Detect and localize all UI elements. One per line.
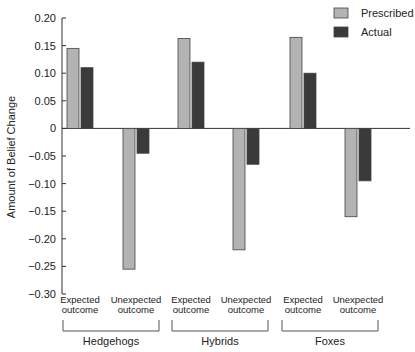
- bars: [67, 37, 371, 269]
- y-tick-label: 0.05: [35, 95, 56, 107]
- category-label: outcome: [62, 304, 98, 315]
- bar-prescribed-hybrids-expected: [178, 38, 190, 128]
- category-label: outcome: [173, 304, 209, 315]
- group-bracket: [172, 320, 268, 331]
- group-bracket: [282, 320, 378, 331]
- bar-prescribed-foxes-expected: [290, 37, 302, 128]
- y-axis-label: Amount of Belief Change: [5, 96, 17, 218]
- y-tick-label: 0.10: [35, 67, 56, 79]
- y-tick-label: 0.15: [35, 40, 56, 52]
- category-label: outcome: [285, 304, 321, 315]
- bar-prescribed-hybrids-unexpected: [233, 128, 245, 249]
- legend: PrescribedActual: [334, 7, 414, 38]
- bar-actual-hybrids-expected: [192, 62, 204, 128]
- y-tick-label: −0.15: [28, 205, 56, 217]
- y-tick-label: −0.05: [28, 150, 56, 162]
- category-label: outcome: [228, 304, 264, 315]
- y-tick-label: −0.10: [28, 178, 56, 190]
- y-tick-label: −0.30: [28, 288, 56, 300]
- bar-prescribed-foxes-unexpected: [345, 128, 357, 216]
- group-label-hybrids: Hybrids: [201, 335, 239, 347]
- bar-actual-hedgehogs-unexpected: [137, 128, 149, 153]
- legend-swatch-actual: [334, 27, 348, 37]
- legend-label-actual: Actual: [361, 26, 392, 38]
- bar-prescribed-hedgehogs-expected: [67, 48, 79, 128]
- y-tick-label: 0.20: [35, 12, 56, 24]
- bar-actual-hybrids-unexpected: [247, 128, 259, 164]
- bar-chart: 0.200.150.100.050−0.05−0.10−0.15−0.20−0.…: [0, 0, 415, 352]
- group-bracket: [63, 320, 159, 331]
- category-label: outcome: [340, 304, 376, 315]
- legend-label-prescribed: Prescribed: [361, 7, 414, 19]
- bar-actual-foxes-expected: [304, 73, 316, 128]
- group-label-foxes: Foxes: [315, 335, 345, 347]
- legend-swatch-prescribed: [334, 8, 348, 18]
- category-label: outcome: [118, 304, 154, 315]
- y-tick-label: −0.25: [28, 260, 56, 272]
- bar-actual-hedgehogs-expected: [81, 68, 93, 129]
- x-axis-labels: ExpectedoutcomeUnexpectedoutcomeExpected…: [60, 294, 383, 347]
- y-tick-label: −0.20: [28, 233, 56, 245]
- y-tick-label: 0: [50, 122, 56, 134]
- group-label-hedgehogs: Hedgehogs: [83, 335, 140, 347]
- bar-actual-foxes-unexpected: [359, 128, 371, 180]
- bar-prescribed-hedgehogs-unexpected: [123, 128, 135, 269]
